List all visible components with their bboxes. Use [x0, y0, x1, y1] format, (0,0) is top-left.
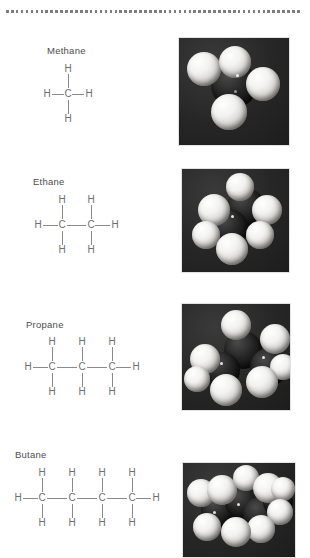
bond-c2-hbottom	[91, 231, 92, 245]
model-hydrogen-atom	[210, 374, 242, 406]
bond-c1-htop	[52, 347, 53, 361]
model-hydrogen-atom	[246, 366, 278, 398]
rule-dot	[248, 10, 251, 13]
model-highlight	[231, 215, 234, 218]
bond-c1-htop	[42, 478, 43, 492]
rule-dot	[41, 10, 44, 13]
model-hydrogen-atom	[219, 46, 251, 78]
bond-c2-htop	[91, 205, 92, 219]
rule-dot	[70, 10, 73, 13]
bond-carbon1-carbon2	[57, 367, 77, 368]
bond-c1-htop	[62, 205, 63, 219]
molecule-name-methane: Methane	[47, 45, 86, 56]
bond-c4-hright	[136, 498, 151, 499]
rule-dot	[85, 10, 88, 13]
atom-carbon-3: C	[97, 493, 107, 503]
bond-carbon2-carbon3	[77, 498, 97, 499]
atom-carbon-2: C	[67, 493, 77, 503]
rule-dot	[144, 10, 147, 13]
atom-hydrogen-bottom-c1: H	[57, 245, 67, 255]
rule-dot	[45, 10, 48, 13]
model-hydrogen-atom	[246, 221, 274, 249]
bond-carbon2-carbon3	[87, 367, 107, 368]
rule-dot	[267, 10, 270, 13]
atom-hydrogen-top-c2: H	[86, 195, 96, 205]
rule-dot	[95, 10, 98, 13]
bond-c2-htop	[82, 347, 83, 361]
atom-hydrogen-top-c4: H	[127, 468, 137, 478]
bond-c3-hbottom	[112, 373, 113, 387]
molecular-model-propane	[181, 303, 291, 411]
atom-hydrogen-left: H	[42, 89, 52, 99]
rule-dot	[228, 10, 231, 13]
bond-c3-hbottom	[102, 504, 103, 518]
bond-c2-hright	[95, 225, 110, 226]
bond-carbon1-hright	[72, 94, 84, 95]
rule-dot	[110, 10, 113, 13]
rule-dot	[36, 10, 39, 13]
bond-carbon1-htop	[68, 74, 69, 88]
rule-dot	[282, 10, 285, 13]
rule-dot	[193, 10, 196, 13]
bond-c1-hleft	[43, 225, 58, 226]
rule-dot	[203, 10, 206, 13]
model-hydrogen-atom	[260, 324, 290, 354]
model-highlight	[262, 356, 265, 359]
bond-c1-hleft	[33, 367, 48, 368]
atom-hydrogen-bottom-c1: H	[47, 387, 57, 397]
bond-c1-hbottom	[42, 504, 43, 518]
model-hydrogen-atom	[221, 517, 251, 547]
bond-c3-htop	[112, 347, 113, 361]
model-hydrogen-atom	[216, 233, 248, 265]
bond-carbon1-hbottom	[68, 100, 69, 114]
molecule-name-propane: Propane	[26, 319, 64, 330]
bond-c4-htop	[132, 478, 133, 492]
rule-dot	[164, 10, 167, 13]
rule-dot	[208, 10, 211, 13]
bond-c2-hbottom	[72, 504, 73, 518]
rule-dot	[174, 10, 177, 13]
rule-dot	[233, 10, 236, 13]
atom-hydrogen-bottom-c3: H	[107, 387, 117, 397]
bond-c3-htop	[102, 478, 103, 492]
rule-dot	[258, 10, 261, 13]
rule-dot	[16, 10, 19, 13]
rule-dot	[119, 10, 122, 13]
rule-dot	[184, 10, 187, 13]
model-hydrogen-atom	[221, 310, 251, 340]
rule-dot	[243, 10, 246, 13]
model-hydrogen-atom	[187, 52, 221, 86]
rule-dot	[60, 10, 63, 13]
rule-dot	[149, 10, 152, 13]
atom-hydrogen-top-c1: H	[57, 195, 67, 205]
rule-dot	[159, 10, 162, 13]
atom-carbon-2: C	[77, 362, 87, 372]
atom-hydrogen-top-c3: H	[107, 337, 117, 347]
structural-formula-propane: C C C H H H H H H H H	[18, 335, 163, 405]
rule-dot	[90, 10, 93, 13]
atom-hydrogen-right: H	[151, 493, 161, 503]
bond-carbon1-carbon2	[47, 498, 67, 499]
rule-dot	[21, 10, 24, 13]
atom-hydrogen-right: H	[84, 89, 94, 99]
rule-dot	[189, 10, 192, 13]
atom-hydrogen-bottom: H	[63, 114, 73, 124]
bond-carbon3-carbon4	[107, 498, 127, 499]
rule-dot	[124, 10, 127, 13]
top-dotted-rule	[6, 10, 302, 14]
bond-c2-hbottom	[82, 373, 83, 387]
atom-hydrogen-top-c2: H	[67, 468, 77, 478]
rule-dot	[253, 10, 256, 13]
rule-dot	[80, 10, 83, 13]
rule-dot	[213, 10, 216, 13]
structural-formula-ethane: C C H H H H H H	[26, 193, 156, 263]
structural-formula-butane: C C C C H H H H H H H H H H	[8, 466, 173, 536]
atom-hydrogen-bottom-c1: H	[37, 518, 47, 528]
molecular-model-ethane	[181, 168, 290, 273]
atom-hydrogen-bottom-c2: H	[77, 387, 87, 397]
molecule-name-butane: Butane	[15, 449, 47, 460]
rule-dot	[277, 10, 280, 13]
atom-hydrogen-right: H	[110, 220, 120, 230]
model-highlight	[213, 511, 216, 514]
model-highlight	[236, 74, 239, 77]
